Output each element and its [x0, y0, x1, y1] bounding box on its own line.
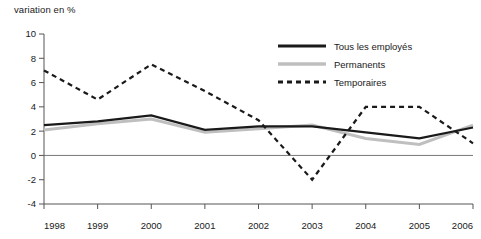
legend-label-3: Temporaires — [334, 77, 387, 88]
x-axis-tick-label: 2001 — [194, 220, 215, 231]
legend-label-2: Permanents — [334, 59, 385, 70]
y-axis-tick-label: 0 — [31, 150, 36, 161]
x-axis-tick-label: 2000 — [141, 220, 162, 231]
y-axis-tick-label: 10 — [25, 28, 36, 39]
line-chart-svg: -4-20246810 1998199920002001200220032004… — [0, 0, 481, 239]
legend-label-1: Tous les employés — [334, 41, 412, 52]
x-axis-tick-label: 1998 — [44, 220, 65, 231]
x-axis-tick-label: 2005 — [409, 220, 430, 231]
y-axis-tick-labels: -4-20246810 — [25, 28, 36, 209]
series-line-2 — [44, 119, 473, 145]
y-axis-tick-label: 4 — [31, 101, 36, 112]
series-lines — [44, 64, 473, 179]
y-axis-tick-label: 2 — [31, 126, 36, 137]
chart-container: variation en % -4-20246810 1998199920002… — [0, 0, 481, 239]
x-axis-tick-label: 1999 — [87, 220, 108, 231]
y-axis-tick-label: 8 — [31, 53, 36, 64]
chart-legend: Tous les employésPermanentsTemporaires — [278, 41, 412, 88]
y-axis-tick-label: -4 — [28, 198, 36, 209]
x-axis-tick-label: 2003 — [302, 220, 323, 231]
x-axis-tick-label: 2002 — [248, 220, 269, 231]
y-axis-tick-label: 6 — [31, 77, 36, 88]
y-axis-tick-label: -2 — [28, 174, 36, 185]
x-axis-tick-label: 2004 — [355, 220, 376, 231]
series-line-1 — [44, 115, 473, 138]
x-axis-tick-labels: 199819992000200120022003200420052006 — [44, 220, 473, 231]
x-axis-tick-label: 2006 — [452, 220, 473, 231]
